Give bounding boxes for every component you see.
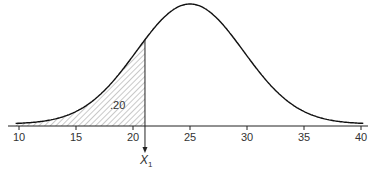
x-tick-label: 25	[184, 131, 196, 143]
normal-curve	[16, 4, 364, 123]
x-tick-label: 10	[13, 131, 25, 143]
normal-distribution-chart: 10152025303540 .20 X1	[0, 0, 371, 172]
x-tick-label: 15	[70, 131, 82, 143]
x-tick-label: 30	[241, 131, 253, 143]
x-tick-label: 35	[298, 131, 310, 143]
x-axis-ticks: 10152025303540	[13, 126, 367, 143]
shaded-area-left-tail	[16, 40, 145, 126]
x-tick-label: 20	[127, 131, 139, 143]
x1-label: X1	[139, 153, 153, 169]
x-tick-label: 40	[355, 131, 367, 143]
area-label: .20	[110, 99, 125, 111]
